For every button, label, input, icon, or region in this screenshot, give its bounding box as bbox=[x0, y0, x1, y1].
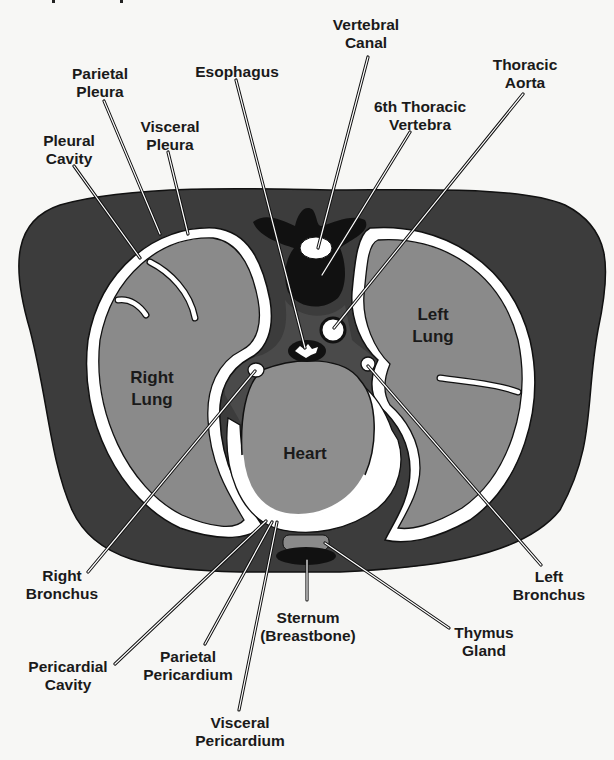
callout-parietal-pleura: ParietalPleura bbox=[72, 65, 128, 100]
heart-label: Heart bbox=[283, 444, 327, 463]
vertebral-canal-shape bbox=[300, 237, 332, 259]
callout-pleural-cavity: PleuralCavity bbox=[43, 132, 95, 167]
callout-thoracic-aorta: ThoracicAorta bbox=[493, 56, 558, 91]
callout-esophagus: Esophagus bbox=[195, 63, 279, 80]
callout-vertebral-canal: VertebralCanal bbox=[333, 16, 399, 51]
callout-parietal-pericardium: ParietalPericardium bbox=[143, 648, 233, 683]
callout-visceral-pericardium: VisceralPericardium bbox=[195, 714, 285, 749]
callout-visceral-pleura: VisceralPleura bbox=[140, 118, 199, 153]
callout-sternum: Sternum(Breastbone) bbox=[260, 609, 356, 644]
callout-thymus-gland: ThymusGland bbox=[454, 624, 513, 659]
callout-sixth-thoracic-vertebra: 6th ThoracicVertebra bbox=[374, 98, 467, 133]
thoracic-cross-section-diagram: RightLung LeftLung Heart VertebralCanal … bbox=[0, 0, 614, 760]
left-bronchus-shape bbox=[361, 357, 375, 371]
callout-pericardial-cavity: PericardialCavity bbox=[28, 658, 107, 693]
thoracic-aorta-shape bbox=[321, 318, 345, 342]
truncated-title-fragment bbox=[52, 0, 123, 3]
callout-left-bronchus: LeftBronchus bbox=[513, 568, 585, 603]
